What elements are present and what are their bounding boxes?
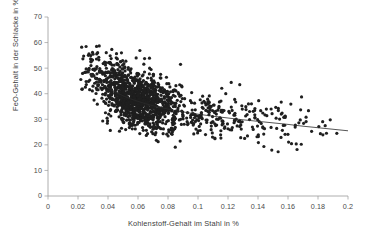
x-tick-label: 0.08 [152, 202, 184, 211]
y-tick-label: 30 [14, 115, 42, 124]
x-tick-label: 0.18 [302, 202, 334, 211]
x-tick-label: 0.12 [212, 202, 244, 211]
x-tick-label: 0.04 [92, 202, 124, 211]
x-tick-label: 0 [32, 202, 64, 211]
x-tick-label: 0.2 [332, 202, 364, 211]
x-tick-label: 0.02 [62, 202, 94, 211]
x-tick-label: 0.14 [242, 202, 274, 211]
y-axis-title: FeO-Gehalt in der Schlacke in % [11, 0, 20, 111]
x-axis-title: Kohlenstoff-Gehalt im Stahl in % [0, 219, 367, 228]
x-tick-label: 0.06 [122, 202, 154, 211]
x-tick-label: 0.1 [182, 202, 214, 211]
y-tick-label: 20 [14, 140, 42, 149]
scatter-chart: 01020304050607000.020.040.060.080.10.120… [0, 0, 367, 236]
y-tick-label: 10 [14, 166, 42, 175]
x-tick-label: 0.16 [272, 202, 304, 211]
y-tick-label: 0 [14, 191, 42, 200]
